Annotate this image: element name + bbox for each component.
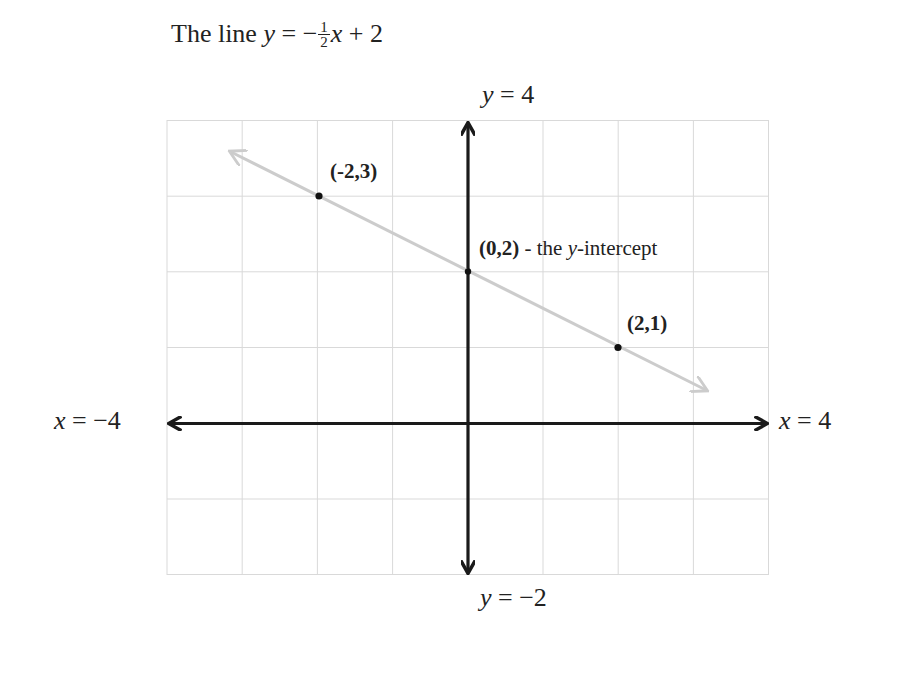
label-text: = 4 (791, 406, 832, 435)
note-var: y (568, 236, 577, 260)
point-label-0-2: (0,2) - the y-intercept (479, 236, 657, 261)
point-0-2 (465, 268, 471, 274)
note-suffix: -intercept (577, 236, 657, 260)
label-x-min: x = −4 (54, 406, 121, 436)
point-label-2-1: (2,1) (627, 311, 667, 336)
label-var: y (482, 80, 494, 109)
note-prefix: - the (519, 236, 567, 260)
label-y-min: y = −2 (480, 583, 547, 613)
label-y-max: y = 4 (482, 80, 534, 110)
label-x-max: x = 4 (779, 406, 831, 436)
point-neg2-3 (315, 192, 322, 199)
intercept-note: - the y-intercept (519, 236, 657, 260)
label-text: = −2 (492, 583, 547, 612)
label-var: x (54, 406, 66, 435)
label-text: = −4 (66, 406, 121, 435)
point-2-1 (614, 344, 621, 351)
label-var: y (480, 583, 492, 612)
label-var: x (779, 406, 791, 435)
label-text: = 4 (494, 80, 535, 109)
coordinate-plane (0, 0, 903, 680)
point-label-neg2-3: (-2,3) (330, 159, 377, 184)
point-coord: (0,2) (479, 236, 519, 260)
